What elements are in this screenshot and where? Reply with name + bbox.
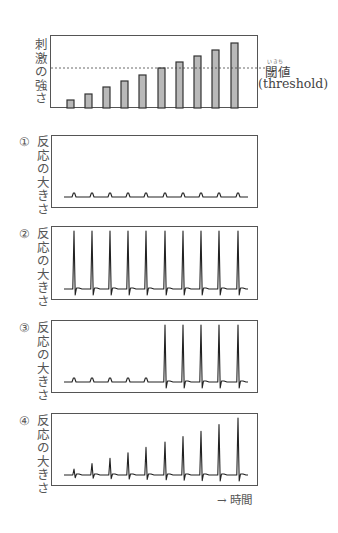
response-axis-label-2: 反応の大きさ xyxy=(36,227,50,309)
response-trace-box-4 xyxy=(51,413,258,486)
response-axis-label-4: 反応の大きさ xyxy=(36,414,50,496)
response-trace-3 xyxy=(52,321,259,394)
panel-number-1: ① xyxy=(19,135,30,149)
stimulus-chart xyxy=(50,35,258,108)
response-trace-box-3 xyxy=(51,320,258,393)
threshold-english-label: (threshold) xyxy=(258,76,328,91)
panel-number-4: ④ xyxy=(19,414,30,428)
response-trace-box-1 xyxy=(51,135,258,208)
response-axis-label-1: 反応の大きさ xyxy=(36,135,50,217)
response-trace-1 xyxy=(52,136,259,209)
time-axis-label: → 時間 xyxy=(217,491,252,507)
panel-number-3: ③ xyxy=(19,321,30,335)
stimulus-axis-label: 刺激の強さ xyxy=(34,38,48,106)
response-axis-label-3: 反応の大きさ xyxy=(36,321,50,403)
stimulus-bars xyxy=(51,36,259,109)
response-trace-4 xyxy=(52,414,259,487)
response-trace-2 xyxy=(52,227,259,301)
response-trace-box-2 xyxy=(51,226,258,300)
panel-number-2: ② xyxy=(19,227,30,241)
